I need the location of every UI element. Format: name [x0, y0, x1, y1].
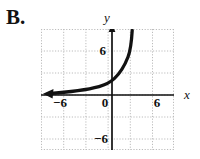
x-tick-label-positive-6: 6 [154, 95, 161, 110]
graph-svg: −6 0 6 6 −6 y [41, 29, 174, 150]
y-axis-label-wrap: y [100, 6, 124, 30]
coordinate-plane: −6 0 6 6 −6 y x y [41, 29, 174, 150]
x-axis-label: x [183, 87, 190, 102]
problem-label: B. [6, 7, 25, 28]
curve-left-arrowhead [43, 89, 54, 99]
y-tick-label-negative-6: −6 [94, 131, 108, 146]
figure-container: B. [0, 0, 200, 159]
x-tick-label-negative-6: −6 [53, 95, 67, 110]
y-axis-label-text: y [102, 10, 110, 25]
x-axis-label-wrap: x [182, 83, 200, 107]
exponential-curve [48, 31, 132, 94]
y-tick-label-positive-6: 6 [100, 43, 107, 58]
origin-label: 0 [102, 95, 109, 110]
